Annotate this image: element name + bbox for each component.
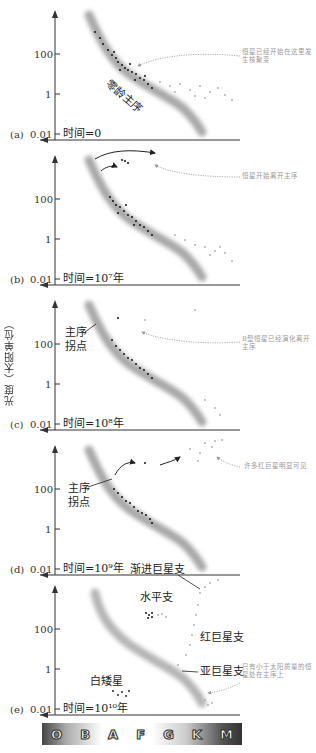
panel-tag: (b)	[10, 274, 24, 285]
annotation-note: B型恒星已经演化离开主序	[242, 335, 314, 351]
panel-d: (d) 时间=10⁹年 主序 拐点	[10, 439, 240, 578]
white-dwarf-label: 白矮星	[90, 674, 123, 688]
panel-c: (c) 时间=10⁸年 主序 拐点	[10, 300, 240, 433]
panel-tag: (a)	[10, 129, 24, 140]
turnoff-label-2: 拐点	[68, 495, 90, 509]
spectral-class-bar: O B A F G K M	[42, 723, 242, 745]
y-axis-label: 光度（太阳单位）	[4, 318, 18, 406]
panel-tag: (d)	[10, 564, 24, 575]
panel-tag: (c)	[10, 419, 24, 430]
panel-tag: (e)	[10, 704, 24, 715]
spectral-class-m: M	[220, 727, 233, 742]
agb-label: 渐进巨星支	[130, 562, 185, 576]
panel-a: (a) 时间=0 零龄主序	[10, 10, 240, 143]
subgiant-branch-label: 亚巨星支	[200, 665, 244, 678]
panel-b: (b) 时间=10⁷年	[10, 151, 240, 288]
time-label: 时间=10⁸年	[63, 416, 124, 430]
spectral-class-a: A	[108, 727, 118, 742]
annotation-note: 许多红巨星明显可见	[244, 462, 316, 470]
spectral-class-g: G	[163, 727, 174, 742]
spectral-class-k: K	[192, 727, 202, 742]
annotation-note: 恒星开始离开主序	[242, 172, 314, 180]
annotation-note: 恒星已经开始在这里发生核聚变	[242, 48, 314, 64]
hr-diagram-figure: 100 1 0.01 (a) 时间=0 零龄主序 恒星已经开始在这里发生核聚变	[0, 0, 316, 753]
time-label: 时间=0	[63, 127, 101, 140]
spectral-class-f: F	[136, 727, 145, 742]
horizontal-branch-label: 水平支	[140, 591, 173, 604]
annotation-note: 只有小于太阳质量的恒星处在主序上	[242, 663, 316, 679]
turnoff-label-1: 主序	[68, 481, 90, 495]
turnoff-label-2: 拐点	[65, 339, 87, 353]
panel-e: (e) 时间=10¹⁰年 渐进巨星支 水平支 红巨星支 亚巨星支 白矮星	[10, 562, 244, 718]
time-label: 时间=10¹⁰年	[63, 701, 128, 715]
time-label: 时间=10⁹年	[63, 561, 124, 575]
time-label: 时间=10⁷年	[63, 271, 124, 285]
spectral-class-o: O	[51, 727, 62, 742]
red-giant-branch-label: 红巨星支	[200, 631, 244, 644]
turnoff-label-1: 主序	[65, 325, 87, 339]
spectral-class-b: B	[80, 727, 90, 742]
